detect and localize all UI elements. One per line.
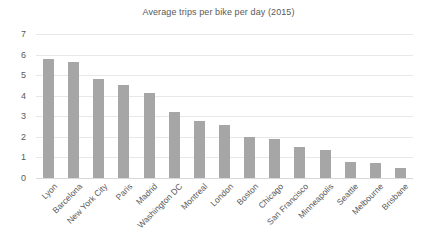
y-axis: 01234567 [0, 34, 32, 178]
bar[interactable] [68, 62, 79, 178]
y-axis-tick-label: 5 [21, 71, 26, 80]
x-axis-tick-label: Lyon [40, 182, 59, 201]
bar[interactable] [219, 125, 230, 178]
x-axis-tick-label: Brisbane [381, 182, 411, 212]
y-axis-tick-label: 3 [21, 112, 26, 121]
bar[interactable] [144, 93, 155, 178]
bar[interactable] [320, 150, 331, 178]
y-axis-tick-label: 1 [21, 153, 26, 162]
bar[interactable] [269, 139, 280, 178]
bar[interactable] [194, 121, 205, 178]
x-axis: LyonBarcelonaNew York CityParisMadridWas… [0, 178, 437, 251]
x-axis-tick-label: Paris [114, 182, 134, 202]
bar[interactable] [370, 163, 381, 178]
bar[interactable] [395, 168, 406, 178]
bar[interactable] [294, 147, 305, 178]
y-axis-tick-label: 6 [21, 50, 26, 59]
bar[interactable] [93, 79, 104, 178]
bar-chart: Average trips per bike per day (2015) 01… [0, 0, 437, 251]
x-axis-tick-label: Montreal [180, 182, 209, 211]
bars-layer [36, 34, 413, 178]
y-axis-tick-label: 2 [21, 132, 26, 141]
y-axis-tick-label: 4 [21, 91, 26, 100]
bar[interactable] [118, 85, 129, 178]
bar[interactable] [244, 137, 255, 178]
x-axis-tick-label: London [208, 182, 234, 208]
y-axis-tick-label: 7 [21, 30, 26, 39]
bar[interactable] [345, 162, 356, 178]
chart-title: Average trips per bike per day (2015) [0, 7, 437, 17]
bar[interactable] [43, 59, 54, 178]
bar[interactable] [169, 112, 180, 178]
